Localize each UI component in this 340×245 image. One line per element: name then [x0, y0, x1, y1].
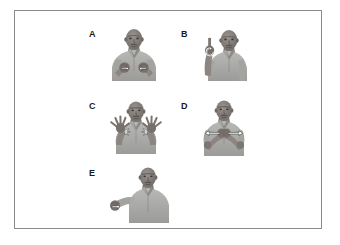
- panel-b-photo: [197, 27, 247, 81]
- panel-a-label: A: [89, 30, 96, 39]
- panel-c-figure-illustration: [107, 100, 165, 154]
- panel-a-photo: [109, 27, 159, 81]
- panel-d-figure-illustration: [193, 100, 255, 156]
- panel-b-figure-illustration: [197, 27, 247, 81]
- panel-c-photo: [107, 100, 165, 154]
- panel-e-figure-illustration: [107, 167, 177, 223]
- panel-b-label: B: [181, 30, 188, 39]
- panel-d-photo: [193, 100, 255, 156]
- panel-d-label: D: [181, 102, 188, 111]
- panel-e-label: E: [89, 169, 95, 178]
- panel-c-label: C: [89, 102, 96, 111]
- panel-e-photo: [107, 167, 177, 223]
- figure-border: A: [14, 10, 322, 229]
- panel-a-figure-illustration: [109, 27, 159, 81]
- figure-root: A: [0, 0, 340, 245]
